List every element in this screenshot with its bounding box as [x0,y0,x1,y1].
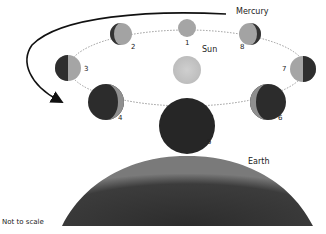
sun-label: Sun [202,46,217,54]
phase-2-label: 2 [131,44,135,51]
phase-7-icon [290,56,316,82]
phase-6-label: 6 [278,115,282,122]
scale-note: Not to scale [2,219,44,226]
phase-8-label: 8 [240,44,244,51]
phase-1-label: 1 [185,40,189,47]
sun-icon [173,56,201,84]
phase-4-label: 4 [118,115,122,122]
phase-8-icon [239,23,261,45]
earth-icon [62,156,313,226]
phase-3-label: 3 [84,66,88,73]
earth-label: Earth [248,158,269,166]
phase-2-icon [110,23,132,45]
phase-3-icon [55,55,81,81]
phase-1-icon [178,19,196,37]
phase-7-label: 7 [282,66,286,73]
phase-5-label: 5 [207,139,211,146]
mercury-label: Mercury [236,8,268,16]
